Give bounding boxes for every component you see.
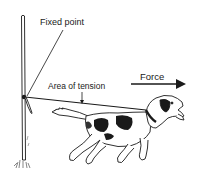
dog-tension-diagram: Fixed point Area of tension Force [0,0,197,177]
area-of-tension-label: Area of tension [48,82,105,91]
dog-illustration [52,95,184,164]
fixed-post [14,15,30,168]
force-label: Force [140,72,164,82]
leash-line [25,97,146,110]
tension-pointer-arrow [80,92,84,104]
fixed-point-label: Fixed point [40,18,84,27]
